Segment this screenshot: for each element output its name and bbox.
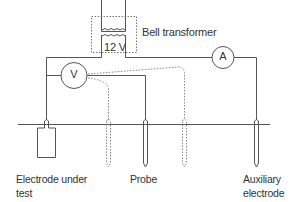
transformer-voltage: 12 V [104,40,126,54]
electrode-under-test [38,120,56,158]
transformer-coil-primary [102,29,125,31]
electrode-under-test-label-line2: test [16,186,87,200]
auxiliary-electrode-label: Auxiliary electrode [243,172,279,200]
auxiliary-label-line1: Auxiliary [243,172,279,186]
transformer-primary [102,0,126,32]
transformer-label: Bell transformer [142,25,216,39]
wire-voltmeter-probe [87,76,146,121]
electrode-under-test-label: Electrode under test [16,172,87,200]
voltmeter-label: V [64,68,84,80]
dashed-lead-near [88,78,109,120]
electrode-under-test-label-line1: Electrode under [16,172,87,186]
probe-alt-far [183,120,187,168]
wire-ammeter-aux [234,58,257,121]
probe-electrode [144,120,148,168]
probe-label: Probe [130,172,157,186]
auxiliary-electrode [255,120,259,168]
transformer-coil-secondary [102,35,125,37]
auxiliary-label-line2: electrode [243,186,279,200]
probe-alt-near [107,120,111,168]
ammeter-label: A [213,50,233,62]
dashed-lead-far [88,67,185,120]
